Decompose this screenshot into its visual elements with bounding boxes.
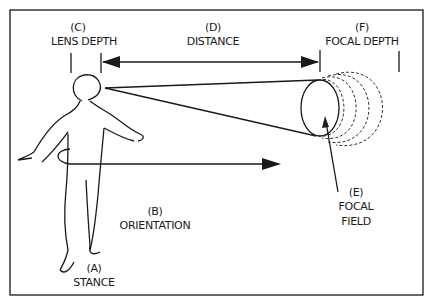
label-distance: DISTANCE [187, 35, 240, 48]
label-stance: STANCE [73, 276, 115, 289]
arrowhead-left-icon [102, 56, 120, 68]
label-orientation: ORIENTATION [120, 219, 191, 232]
orientation-arrowhead-icon [262, 158, 281, 170]
focal-field-pointer [326, 122, 338, 192]
cone-bottom-line [105, 88, 316, 136]
pointer-arrowhead-icon [322, 116, 329, 128]
label-c-letter: (C) [70, 21, 85, 34]
attention-diagram: (C) LENS DEPTH (D) DISTANCE (F) FOCAL DE… [0, 0, 433, 304]
focal-depth-echo-1 [318, 79, 344, 136]
label-field: FIELD [341, 215, 371, 228]
label-focal: FOCAL [339, 200, 375, 213]
orientation-arrow [58, 149, 266, 164]
label-a-letter: (A) [86, 262, 101, 275]
label-e-letter: (E) [349, 186, 364, 199]
arrowhead-right-icon [301, 56, 319, 68]
label-focal-depth: FOCAL DEPTH [325, 35, 399, 48]
label-b-letter: (B) [147, 205, 162, 218]
label-lens-depth: LENS DEPTH [51, 35, 117, 48]
focal-depth-echo-4 [336, 72, 383, 145]
focal-field-ellipse [301, 80, 339, 136]
label-d-letter: (D) [205, 21, 221, 34]
diagram-frame [10, 10, 423, 295]
label-f-letter: (F) [355, 21, 369, 34]
cone-top-line [105, 80, 318, 88]
human-figure [18, 75, 143, 272]
